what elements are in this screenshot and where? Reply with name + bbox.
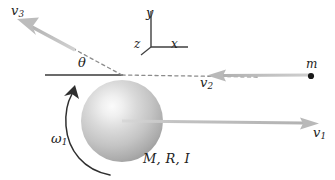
label-point-mass-m: m bbox=[306, 58, 317, 70]
label-axis-y: y bbox=[146, 6, 153, 19]
label-v1: v1 bbox=[313, 126, 326, 141]
axis-z-line bbox=[141, 47, 151, 55]
v3-arrowhead bbox=[17, 18, 39, 36]
label-theta-angle: θ bbox=[78, 56, 86, 69]
omega1-arrowhead bbox=[64, 85, 79, 99]
physics-collision-diagram: v3 y z x θ m v2 v1 ω1 M, R, I bbox=[0, 0, 335, 180]
v3-shaft bbox=[32, 27, 75, 50]
velocity-v2-arrow bbox=[207, 70, 310, 82]
velocity-v3-arrow bbox=[17, 18, 75, 51]
label-v3: v3 bbox=[11, 4, 24, 19]
label-axis-z: z bbox=[134, 38, 140, 50]
label-axis-x: x bbox=[171, 38, 178, 50]
label-omega1: ω1 bbox=[51, 132, 67, 147]
label-body-properties: M, R, I bbox=[143, 152, 190, 165]
point-mass-dot bbox=[308, 73, 314, 79]
v1-shaft bbox=[122, 121, 303, 123]
label-v2: v2 bbox=[200, 76, 213, 91]
v2-shaft bbox=[222, 75, 310, 76]
